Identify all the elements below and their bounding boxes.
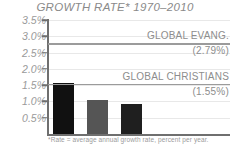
growth-rate-chart: GROWTH RATE* 1970–2010 3.5%3.0%2.5%2.0%1… [0, 0, 230, 147]
bar [53, 83, 74, 134]
reference-line-label: GLOBAL CHRISTIANS [123, 71, 229, 82]
bar [121, 104, 142, 134]
chart-footnote: *Rate = average annual growth rate, perc… [48, 136, 209, 143]
reference-line-label: GLOBAL EVANG. [147, 30, 229, 41]
y-axis-tick-label: 0.5% [2, 112, 46, 124]
y-axis-tick-label: 1.0% [2, 95, 46, 107]
y-axis-tick-labels: 3.5%3.0%2.5%2.0%1.5%1.0%0.5% [0, 0, 46, 147]
y-axis-tick-label: 2.0% [2, 63, 46, 75]
y-axis-tick-label: 3.5% [2, 14, 46, 26]
y-axis-tick-label: 1.5% [2, 79, 46, 91]
reference-line-value: (2.79%) [193, 45, 229, 56]
y-axis-tick-label: 2.5% [2, 47, 46, 59]
bar [87, 100, 108, 134]
reference-line-value: (1.55%) [193, 86, 229, 97]
y-axis-tick-label: 3.0% [2, 30, 46, 42]
